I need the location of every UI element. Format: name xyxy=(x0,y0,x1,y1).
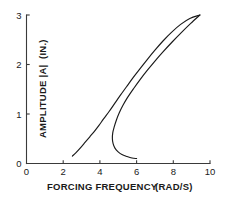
y-tick-label: 3 xyxy=(16,10,21,21)
x-tick-label: 2 xyxy=(61,166,66,177)
chart-canvas: 0246810 0123 FORCING FREQUENCY (RAD/S) A… xyxy=(0,0,226,198)
curve-unstable-branch xyxy=(112,15,200,159)
y-tick-label: 1 xyxy=(16,109,21,120)
axis-lines xyxy=(27,15,211,164)
x-axis-title: FORCING FREQUENCY xyxy=(47,181,158,192)
x-axis-tick-labels: 0246810 xyxy=(24,166,215,177)
y-tick-label: 2 xyxy=(16,59,21,70)
x-axis-unit: (RAD/S) xyxy=(155,181,193,192)
data-curves xyxy=(72,15,200,159)
frequency-response-chart: 0246810 0123 FORCING FREQUENCY (RAD/S) A… xyxy=(0,0,226,198)
x-tick-label: 4 xyxy=(97,166,102,177)
x-tick-label: 0 xyxy=(24,166,29,177)
y-tick-label: 0 xyxy=(16,158,21,169)
x-tick-label: 8 xyxy=(171,166,176,177)
y-axis-tick-labels: 0123 xyxy=(16,10,21,170)
x-tick-label: 10 xyxy=(205,166,216,177)
y-axis-title: AMPLITUDE |A| xyxy=(37,65,48,138)
y-axis-title-group: AMPLITUDE |A| (IN.) xyxy=(37,39,48,138)
x-tick-label: 6 xyxy=(134,166,139,177)
y-axis-unit: (IN.) xyxy=(37,39,48,59)
